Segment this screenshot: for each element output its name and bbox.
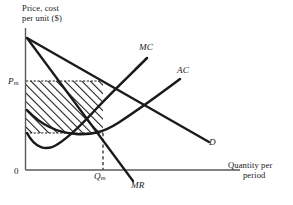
mr-curve-label: MR [131,180,144,191]
x-axis-label: Quantity perperiod [228,160,272,180]
monopoly-profit-diagram: Price, costper unit ($) Quantity perperi… [0,0,293,205]
quantity-tick-qm: Qm [94,171,106,182]
y-axis-label: Price, costper unit ($) [22,3,62,23]
demand-curve-label: D [209,137,216,148]
origin-label: 0 [14,166,19,177]
ac-curve-label: AC [177,65,189,76]
mc-curve-label: MC [139,42,153,53]
price-tick-pm: Pm [8,76,18,87]
